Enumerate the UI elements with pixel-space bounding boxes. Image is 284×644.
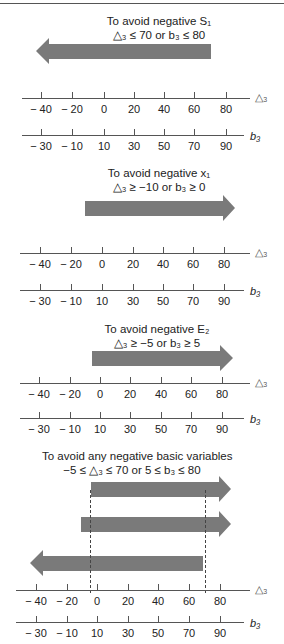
delta-tick xyxy=(193,247,194,253)
panel4-caption: To avoid any negative basic variables −5… xyxy=(42,449,222,477)
b-tick xyxy=(72,129,73,135)
lower-bound-dashed-line xyxy=(90,490,91,593)
delta-tick xyxy=(97,584,98,590)
b-tick-label: 30 xyxy=(119,140,149,152)
panel4-b-axis-name: b₃ xyxy=(250,617,260,629)
b-tick-label: 30 xyxy=(113,627,143,639)
delta-tick-label: − 20 xyxy=(55,388,85,400)
b-tick-label: 50 xyxy=(143,627,173,639)
panel2-arrow-right xyxy=(85,195,236,221)
delta-tick-label: 60 xyxy=(179,103,209,115)
delta-tick xyxy=(128,584,129,590)
delta-tick-label: 80 xyxy=(205,595,235,607)
b-tick-label: 70 xyxy=(176,423,206,435)
b-tick xyxy=(100,412,101,418)
delta-tick-label: − 40 xyxy=(21,595,51,607)
b-tick-label: 30 xyxy=(118,295,148,307)
b-tick xyxy=(97,616,98,622)
delta-tick xyxy=(102,247,103,253)
delta-tick xyxy=(39,377,40,383)
page-top-rule xyxy=(0,3,284,4)
b-tick-label: − 10 xyxy=(55,423,85,435)
delta-tick xyxy=(226,92,227,98)
b-tick-label: − 30 xyxy=(26,140,56,152)
delta-tick-label: 0 xyxy=(85,388,115,400)
delta-tick xyxy=(41,92,42,98)
panel2-b-axis-name: b₃ xyxy=(250,285,260,297)
b-tick-label: − 10 xyxy=(56,295,86,307)
b-tick-label: − 30 xyxy=(24,423,54,435)
panel1-b-axis xyxy=(22,135,244,136)
delta-tick xyxy=(222,377,223,383)
b-tick xyxy=(226,129,227,135)
delta-tick-label: 40 xyxy=(149,103,179,115)
delta-tick xyxy=(104,92,105,98)
delta-tick xyxy=(163,247,164,253)
panel4-delta-axis-name: △₃ xyxy=(255,583,267,596)
delta-tick xyxy=(134,92,135,98)
b-tick-label: 70 xyxy=(174,627,204,639)
b-tick-label: 10 xyxy=(89,140,119,152)
b-tick xyxy=(163,284,164,290)
delta-tick-label: 20 xyxy=(118,258,148,270)
delta-tick xyxy=(72,92,73,98)
delta-tick-label: 20 xyxy=(119,103,149,115)
b-tick xyxy=(70,412,71,418)
panel2-caption: To avoid negative x₁ △₃ ≥ −10 or b₃ ≥ 0 xyxy=(104,166,214,194)
delta-tick xyxy=(220,584,221,590)
delta-tick xyxy=(189,584,190,590)
panel3-b-axis-name: b₃ xyxy=(250,413,260,425)
b-tick xyxy=(222,412,223,418)
delta-tick xyxy=(100,377,101,383)
b-tick xyxy=(191,412,192,418)
panel4-arrow-left xyxy=(30,550,204,576)
panel2-caption-line2: △₃ ≥ −10 or b₃ ≥ 0 xyxy=(104,180,214,194)
panel3-caption-line1: To avoid negative E₂ xyxy=(102,322,212,336)
b-tick-label: 30 xyxy=(115,423,145,435)
b-tick xyxy=(134,129,135,135)
panel3-delta-axis-name: △₃ xyxy=(255,376,267,389)
panel2-delta-axis xyxy=(20,253,250,254)
panel1-caption-line1: To avoid negative S₁ xyxy=(104,14,214,28)
panel4-caption-line1: To avoid any negative basic variables xyxy=(42,449,222,463)
b-tick xyxy=(161,412,162,418)
delta-tick xyxy=(36,584,37,590)
delta-tick xyxy=(224,247,225,253)
delta-tick xyxy=(133,247,134,253)
panel3-delta-axis xyxy=(20,383,250,384)
delta-tick-label: 40 xyxy=(143,595,173,607)
delta-tick-label: 80 xyxy=(209,258,239,270)
delta-tick-label: 0 xyxy=(89,103,119,115)
delta-tick-label: 60 xyxy=(178,258,208,270)
delta-tick-label: 20 xyxy=(113,595,143,607)
delta-tick-label: − 40 xyxy=(24,388,54,400)
panel4-delta-axis xyxy=(16,590,250,591)
delta-tick xyxy=(194,92,195,98)
b-tick-label: − 30 xyxy=(25,295,55,307)
b-tick xyxy=(158,616,159,622)
delta-tick-label: − 40 xyxy=(26,103,56,115)
delta-tick xyxy=(161,377,162,383)
b-tick xyxy=(67,616,68,622)
panel2-delta-axis-name: △₃ xyxy=(255,246,267,259)
b-tick-label: 90 xyxy=(207,423,237,435)
delta-tick-label: 60 xyxy=(176,388,206,400)
delta-tick xyxy=(67,584,68,590)
panel4-b-axis xyxy=(16,622,244,623)
delta-tick xyxy=(164,92,165,98)
b-tick xyxy=(189,616,190,622)
b-tick-label: − 10 xyxy=(52,627,82,639)
delta-tick-label: 0 xyxy=(82,595,112,607)
b-tick xyxy=(130,412,131,418)
b-tick-label: 50 xyxy=(146,423,176,435)
delta-tick-label: 80 xyxy=(207,388,237,400)
b-tick xyxy=(36,616,37,622)
b-tick-label: 70 xyxy=(178,295,208,307)
b-tick-label: 50 xyxy=(149,140,179,152)
b-tick xyxy=(224,284,225,290)
b-tick-label: 50 xyxy=(148,295,178,307)
b-tick xyxy=(194,129,195,135)
delta-tick-label: 0 xyxy=(87,258,117,270)
b-tick xyxy=(104,129,105,135)
panel1-b-axis-name: b₃ xyxy=(250,130,260,142)
